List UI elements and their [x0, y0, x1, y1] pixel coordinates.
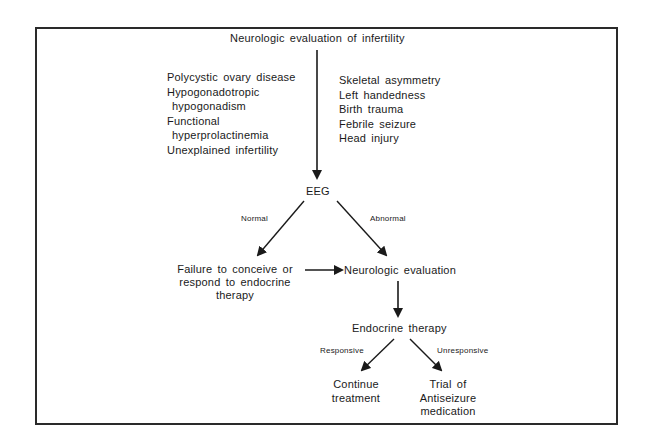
node-text-line: Continue	[320, 378, 392, 392]
arrow-endocrine-responsive	[362, 339, 394, 370]
node-failure-to-conceive: Failure to conceive or respond to endocr…	[170, 263, 300, 302]
node-text-line: Trial of	[412, 378, 484, 392]
diagram-title: Neurologic evaluation of infertility	[230, 31, 405, 45]
condition-item: Skeletal asymmetry	[339, 73, 441, 88]
node-text-line: medication	[412, 405, 484, 419]
edge-label-abnormal: Abnormal	[370, 214, 406, 224]
condition-item: Head injury	[339, 131, 441, 146]
right-conditions-list: Skeletal asymmetry Left handedness Birth…	[339, 73, 441, 146]
condition-item-continued: hyperprolactinemia	[167, 128, 296, 143]
node-neurologic-evaluation: Neurologic evaluation	[344, 263, 456, 277]
edge-label-responsive: Responsive	[320, 346, 364, 356]
node-endocrine-therapy: Endocrine therapy	[352, 321, 447, 335]
condition-item: Functional	[167, 114, 296, 129]
edge-label-normal: Normal	[241, 214, 268, 224]
arrow-eeg-abnormal	[337, 201, 386, 255]
condition-item: Unexplained infertility	[167, 143, 296, 158]
node-text-line: treatment	[320, 392, 392, 406]
node-text-line: Antiseizure	[412, 392, 484, 406]
condition-item: Birth trauma	[339, 102, 441, 117]
edge-label-unresponsive: Unresponsive	[437, 346, 488, 356]
node-continue-treatment: Continue treatment	[320, 378, 392, 405]
node-trial-antiseizure: Trial of Antiseizure medication	[412, 378, 484, 419]
condition-item-continued: hypogonadism	[167, 99, 296, 114]
condition-item: Febrile seizure	[339, 117, 441, 132]
condition-item: Polycystic ovary disease	[167, 70, 296, 85]
node-text-line: Failure to conceive or	[170, 263, 300, 276]
arrow-eeg-normal	[258, 201, 304, 255]
condition-item: Hypogonadotropic	[167, 85, 296, 100]
node-text-line: therapy	[170, 289, 300, 302]
node-eeg: EEG	[306, 184, 330, 198]
left-conditions-list: Polycystic ovary disease Hypogonadotropi…	[167, 70, 296, 157]
node-text-line: respond to endocrine	[170, 276, 300, 289]
condition-item: Left handedness	[339, 88, 441, 103]
